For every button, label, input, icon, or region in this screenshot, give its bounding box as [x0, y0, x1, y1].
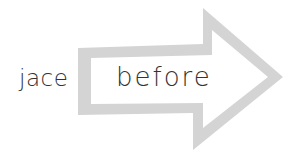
- left-label: jace: [19, 67, 68, 90]
- diagram-canvas: jace before: [0, 0, 291, 164]
- arrow-label: before: [116, 64, 212, 90]
